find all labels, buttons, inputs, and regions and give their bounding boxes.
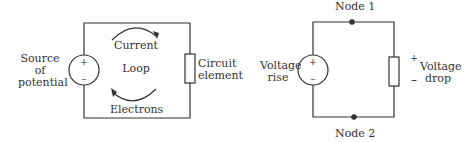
drop-plus-sign: + xyxy=(410,52,418,64)
left-circuit-element xyxy=(185,54,195,83)
right-minus-sign: – xyxy=(308,73,318,85)
circuit-element-label: Circuit element xyxy=(198,58,234,82)
element-label-line2: element xyxy=(198,70,234,82)
source-label-line3: potential xyxy=(18,77,62,89)
left-minus-sign: – xyxy=(79,73,89,85)
rise-label-line2: rise xyxy=(260,72,296,84)
voltage-rise-label: Voltage rise xyxy=(260,60,296,84)
node2-label: Node 2 xyxy=(335,128,371,140)
source-of-potential-label: Source of potential xyxy=(18,53,62,89)
current-label: Current xyxy=(114,40,158,52)
node2-dot xyxy=(351,114,357,120)
drop-minus-sign: – xyxy=(408,74,420,86)
node1-label: Node 1 xyxy=(335,1,371,13)
right-circuit-element xyxy=(389,57,399,86)
right-plus-sign: + xyxy=(308,56,318,68)
left-plus-sign: + xyxy=(79,56,89,68)
loop-label: Loop xyxy=(120,63,152,75)
right-circuit-wires xyxy=(313,22,394,117)
voltage-drop-label: Voltage drop xyxy=(420,61,456,85)
electrons-arrow xyxy=(112,89,156,101)
drop-label-line2: drop xyxy=(420,73,456,85)
electrons-label: Electrons xyxy=(110,104,160,116)
node1-dot xyxy=(349,19,355,25)
